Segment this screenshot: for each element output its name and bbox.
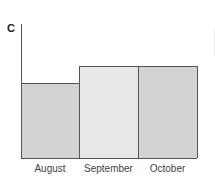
bar-august bbox=[21, 83, 80, 158]
x-tick-label-september: September bbox=[79, 163, 139, 174]
bar-september bbox=[79, 66, 139, 158]
x-tick-label-october: October bbox=[138, 163, 198, 174]
x-tick-label-august: August bbox=[20, 163, 80, 174]
bar-october bbox=[138, 66, 198, 158]
panel-label: C bbox=[7, 22, 15, 34]
edge-artifact bbox=[214, 28, 215, 56]
x-axis bbox=[21, 158, 197, 159]
